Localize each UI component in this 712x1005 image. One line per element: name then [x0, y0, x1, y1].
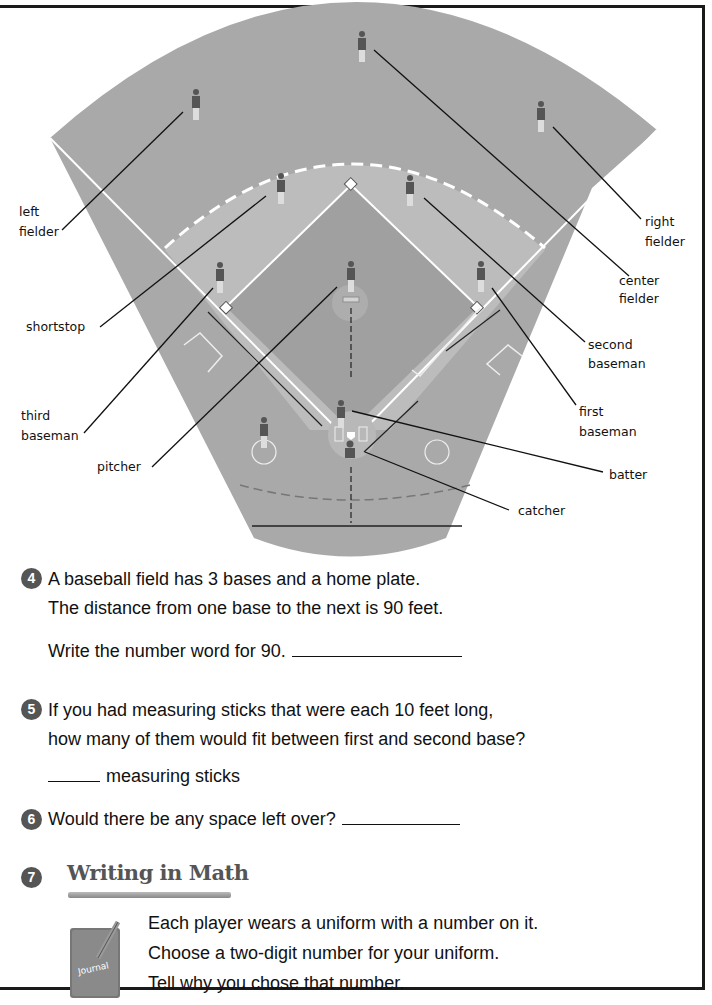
label-third-baseman: thirdbaseman	[21, 408, 79, 443]
label-pitcher: pitcher	[97, 459, 142, 474]
question-5-text: If you had measuring sticks that were ea…	[48, 696, 525, 754]
question-7-text: Each player wears a uniform with a numbe…	[148, 908, 538, 998]
question-number-6: 6	[21, 809, 42, 830]
label-right-fielder: rightfielder	[645, 214, 686, 249]
label-batter: batter	[609, 467, 648, 482]
label-catcher: catcher	[518, 503, 566, 518]
question-number-7: 7	[21, 867, 42, 888]
answer-blank-6[interactable]	[342, 823, 460, 825]
label-center-fielder: centerfielder	[619, 273, 660, 306]
question-4-text: A baseball field has 3 bases and a home …	[48, 565, 443, 623]
question-4-prompt: Write the number word for 90.	[48, 637, 462, 666]
question-number-5: 5	[21, 699, 42, 720]
writing-in-math-heading: Writing in Math	[67, 860, 249, 885]
label-left-fielder: leftfielder	[19, 204, 60, 239]
question-number-4: 4	[21, 568, 42, 589]
question-5-prompt: measuring sticks	[48, 762, 240, 791]
label-shortstop: shortstop	[26, 319, 85, 334]
answer-blank-4[interactable]	[292, 655, 462, 657]
pencil-underline-icon	[68, 892, 231, 898]
question-6-text: Would there be any space left over?	[48, 805, 460, 834]
journal-icon: Journal	[66, 920, 126, 1002]
label-first-baseman: firstbaseman	[579, 404, 637, 439]
answer-blank-5[interactable]	[48, 780, 100, 782]
label-second-baseman: secondbaseman	[588, 337, 646, 371]
baseball-field-diagram: leftfielder shortstop thirdbaseman pitch…	[0, 0, 712, 560]
